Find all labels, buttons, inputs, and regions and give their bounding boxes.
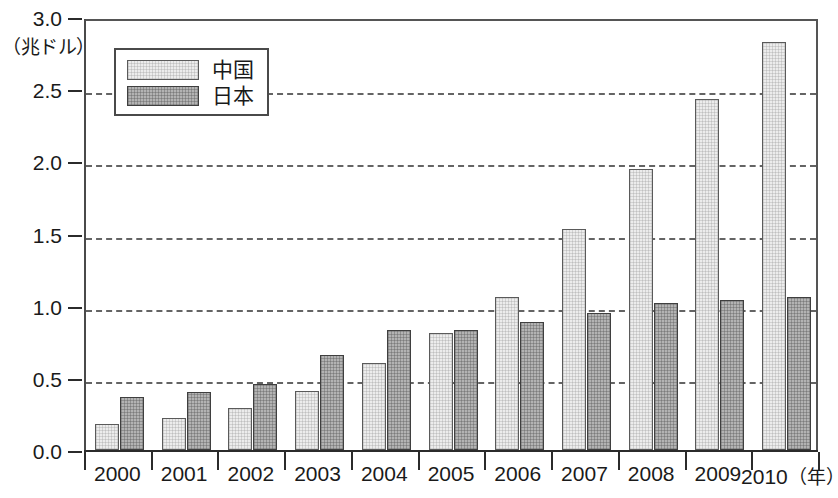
bar-china-2009 (695, 99, 719, 450)
bar-china-2008 (629, 169, 653, 450)
x-axis-line (84, 450, 818, 452)
bar-china-2007 (562, 229, 586, 450)
legend-label-china: 中国 (212, 59, 254, 80)
y-tick-label: 2.0 (6, 151, 62, 175)
legend-item-japan: 日本 (127, 85, 254, 106)
bar-japan-2008 (654, 303, 678, 450)
legend-label-japan: 日本 (212, 85, 254, 106)
bar-japan-2000 (120, 397, 144, 450)
x-tick-label-2007: 2007 (561, 462, 608, 486)
legend: 中国 日本 (114, 48, 269, 116)
y-tick-label: 1.5 (6, 224, 62, 248)
legend-item-china: 中国 (127, 59, 254, 80)
bar-china-2010 (762, 42, 786, 450)
x-tick-mark (418, 452, 420, 470)
x-tick-mark (484, 452, 486, 470)
x-tick-mark (151, 452, 153, 470)
y-tick-label: 1.0 (6, 296, 62, 320)
y-tick-label: 3.0 (6, 7, 62, 31)
y-tick-label: 0.0 (6, 440, 62, 464)
bar-china-2005 (429, 333, 453, 450)
x-tick-mark (217, 452, 219, 470)
y-tick-mark (68, 307, 82, 309)
x-tick-label-2002: 2002 (227, 462, 274, 486)
legend-swatch-china-icon (127, 60, 199, 80)
bar-japan-2006 (520, 322, 544, 450)
bar-japan-2001 (187, 392, 211, 450)
bar-japan-2007 (587, 313, 611, 450)
x-tick-label-2008: 2008 (628, 462, 675, 486)
y-tick-mark (68, 451, 82, 453)
x-tick-mark (818, 452, 820, 470)
y-axis-ticks: 0.00.51.01.52.02.53.0 (0, 0, 62, 498)
y-tick-mark (68, 379, 82, 381)
bar-japan-2009 (720, 300, 744, 450)
x-tick-label-2001: 2001 (161, 462, 208, 486)
x-tick-label-2010: 2010（年） (741, 462, 838, 489)
bar-japan-2004 (387, 330, 411, 450)
y-tick-label: 2.5 (6, 79, 62, 103)
x-tick-label-2005: 2005 (428, 462, 475, 486)
x-tick-mark (84, 452, 86, 470)
legend-swatch-japan-icon (127, 86, 199, 106)
bar-japan-2003 (320, 355, 344, 450)
x-tick-mark (685, 452, 687, 470)
x-tick-mark (351, 452, 353, 470)
bar-china-2003 (295, 391, 319, 450)
x-tick-label-2003: 2003 (294, 462, 341, 486)
y-tick-label: 0.5 (6, 368, 62, 392)
y-tick-mark (68, 18, 82, 20)
x-tick-label-2004: 2004 (361, 462, 408, 486)
bar-china-2002 (228, 408, 252, 450)
x-tick-mark (551, 452, 553, 470)
x-tick-label-2006: 2006 (494, 462, 541, 486)
bar-japan-2010 (787, 297, 811, 450)
bar-japan-2005 (454, 330, 478, 450)
x-tick-label-2009: 2009 (695, 462, 742, 486)
bar-chart: （兆ドル） 0.00.51.01.52.02.53.0 200020012002… (0, 0, 838, 498)
y-tick-mark (68, 90, 82, 92)
y-tick-mark (68, 235, 82, 237)
y-tick-mark (68, 162, 82, 164)
x-tick-label-2000: 2000 (94, 462, 141, 486)
x-tick-mark (618, 452, 620, 470)
bar-china-2006 (495, 297, 519, 450)
y-axis-line (84, 19, 86, 452)
x-tick-mark (751, 452, 753, 470)
bar-china-2000 (95, 424, 119, 450)
x-axis-unit-label: （年） (788, 467, 838, 488)
bar-china-2001 (162, 418, 186, 450)
bar-china-2004 (362, 363, 386, 450)
x-tick-mark (284, 452, 286, 470)
bar-japan-2002 (253, 384, 277, 450)
